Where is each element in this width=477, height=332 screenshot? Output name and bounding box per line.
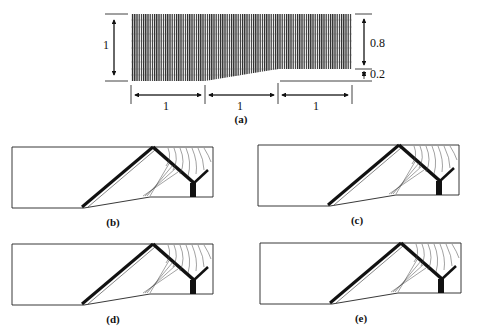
contour-panel-e (260, 243, 461, 304)
panel-e-label: (e) (346, 312, 376, 324)
dim-lower-right: 0.2 (370, 67, 385, 82)
dim-width-2: 1 (237, 99, 243, 114)
figure-canvas (0, 0, 477, 332)
panel-b-label: (b) (98, 216, 128, 228)
dim-upper-right: 0.8 (370, 36, 385, 51)
mesh-diagram (105, 14, 372, 104)
dim-width-3: 1 (313, 99, 319, 114)
dim-left-height: 1 (103, 38, 109, 53)
contour-panel-b (12, 147, 213, 208)
dim-width-1: 1 (163, 99, 169, 114)
contour-panel-d (12, 244, 213, 305)
panel-c-label: (c) (342, 214, 372, 226)
panel-a-label: (a) (226, 113, 256, 125)
panel-d-label: (d) (98, 313, 128, 325)
contour-panel-c (258, 145, 459, 206)
